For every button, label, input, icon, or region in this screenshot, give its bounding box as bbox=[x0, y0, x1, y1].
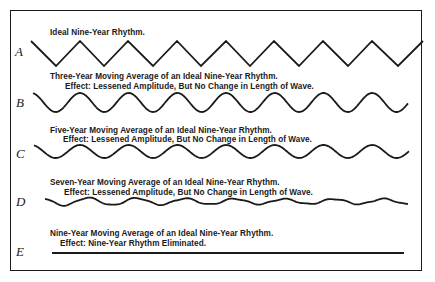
wave-a-ideal-rhythm bbox=[31, 41, 423, 66]
panel-b-effect: Effect: Lessened Amplitude, But No Chang… bbox=[65, 83, 314, 91]
panel-c-effect: Effect: Lessened Amplitude, But No Chang… bbox=[63, 136, 312, 144]
panel-d-effect: Effect: Lessened Amplitude, But No Chang… bbox=[64, 189, 313, 197]
wave-c-five-year-average bbox=[34, 145, 409, 158]
panel-label-d: D bbox=[16, 195, 25, 208]
panel-label-c: C bbox=[16, 147, 25, 160]
panel-label-b: B bbox=[16, 96, 24, 109]
panel-b-title: Three-Year Moving Average of an Ideal Ni… bbox=[50, 73, 278, 81]
wave-d-seven-year-average bbox=[45, 198, 408, 206]
panel-e-effect: Effect: Nine-Year Rhythm Eliminated. bbox=[60, 240, 206, 248]
panel-label-e: E bbox=[16, 245, 24, 258]
panel-e-title: Nine-Year Moving Average of an Ideal Nin… bbox=[50, 230, 273, 238]
panel-d-title: Seven-Year Moving Average of an Ideal Ni… bbox=[50, 179, 280, 187]
panel-label-a: A bbox=[15, 45, 23, 58]
wave-b-three-year-average bbox=[33, 93, 408, 112]
panel-c-title: Five-Year Moving Average of an Ideal Nin… bbox=[50, 127, 272, 135]
panel-a-title: Ideal Nine-Year Rhythm. bbox=[50, 29, 145, 37]
